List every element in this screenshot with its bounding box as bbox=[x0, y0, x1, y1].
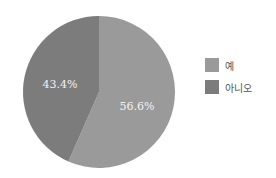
legend-item-yes: 예 bbox=[205, 58, 252, 72]
legend-label-yes: 예 bbox=[225, 58, 234, 73]
legend-item-no: 아니오 bbox=[205, 80, 252, 94]
slice-label-yes: 56.6% bbox=[120, 100, 155, 113]
legend-swatch-no bbox=[205, 80, 219, 94]
legend: 예 아니오 bbox=[205, 58, 252, 102]
legend-swatch-yes bbox=[205, 58, 219, 72]
legend-label-no: 아니오 bbox=[225, 80, 252, 95]
pie-slices bbox=[23, 16, 175, 168]
slice-label-no: 43.4% bbox=[43, 78, 78, 91]
